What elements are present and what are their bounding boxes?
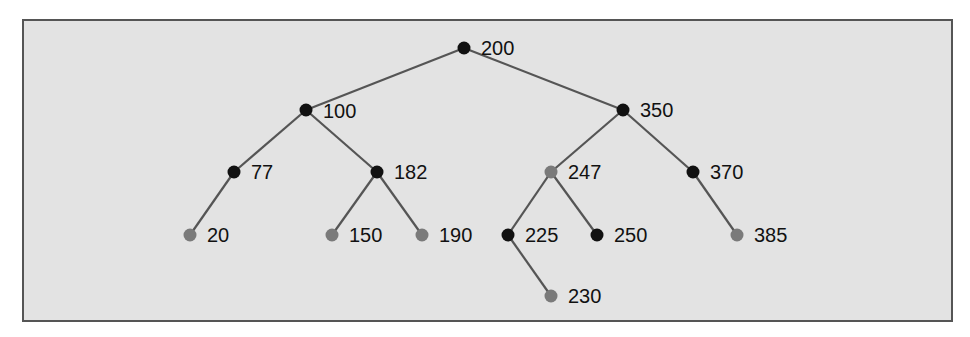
node-label-150: 150: [349, 225, 382, 245]
red-node-150: [326, 229, 339, 242]
black-node-350: [617, 104, 630, 117]
red-node-247: [545, 166, 558, 179]
node-label-100: 100: [323, 101, 356, 121]
black-node-100: [300, 104, 313, 117]
node-label-182: 182: [394, 162, 427, 182]
node-label-200: 200: [481, 38, 514, 58]
node-label-77: 77: [251, 162, 273, 182]
node-label-247: 247: [568, 162, 601, 182]
red-node-190: [416, 229, 429, 242]
node-label-350: 350: [640, 100, 673, 120]
red-node-385: [731, 229, 744, 242]
node-label-385: 385: [754, 225, 787, 245]
node-label-225: 225: [525, 225, 558, 245]
node-label-230: 230: [568, 286, 601, 306]
red-node-230: [545, 290, 558, 303]
node-label-20: 20: [207, 225, 229, 245]
black-node-77: [228, 166, 241, 179]
node-label-250: 250: [614, 225, 647, 245]
black-node-182: [371, 166, 384, 179]
node-label-190: 190: [439, 225, 472, 245]
node-label-370: 370: [710, 162, 743, 182]
black-node-225: [502, 229, 515, 242]
red-node-20: [184, 229, 197, 242]
black-node-370: [687, 166, 700, 179]
black-node-200: [458, 42, 471, 55]
black-node-250: [591, 229, 604, 242]
